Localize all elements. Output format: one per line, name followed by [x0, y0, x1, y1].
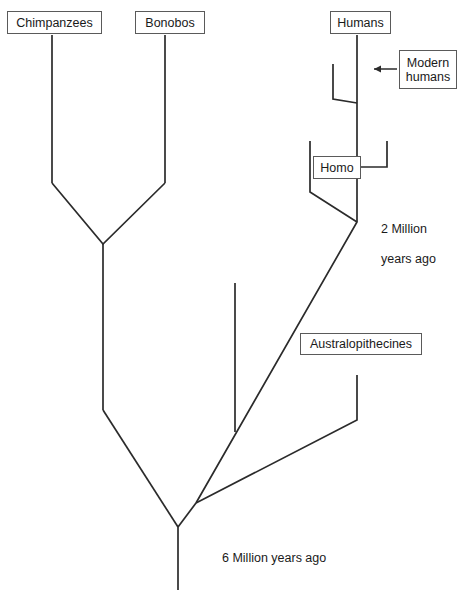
- modern-humans-text-line1: Modern: [407, 56, 449, 70]
- australopithecines-text: Australopithecines: [310, 337, 412, 351]
- node-label-modern-humans[interactable]: Modern humans: [399, 50, 457, 89]
- node-label-australopithecines[interactable]: Australopithecines: [300, 333, 422, 355]
- branch-homo-left: [310, 141, 357, 222]
- two-million-line2: years ago: [381, 252, 436, 267]
- chimpanzees-text: Chimpanzees: [16, 16, 92, 30]
- time-marker-two-million: 2 Million years ago: [381, 207, 436, 282]
- node-label-chimpanzees[interactable]: Chimpanzees: [7, 11, 102, 34]
- homo-text: Homo: [320, 161, 353, 175]
- two-million-line1: 2 Million: [381, 222, 436, 237]
- left-arrow-icon: [374, 66, 397, 73]
- humans-text: Humans: [337, 16, 384, 30]
- branch-australopithecine-stub-b: [196, 375, 357, 503]
- branch-pan-to-root: [103, 410, 178, 527]
- phylogenetic-tree-diagram: Chimpanzees Bonobos Humans Modern humans…: [0, 0, 465, 601]
- six-million-line1: 6 Million years ago: [222, 551, 326, 566]
- node-label-humans[interactable]: Humans: [330, 11, 391, 34]
- branch-modern-humans: [333, 64, 357, 103]
- node-label-homo[interactable]: Homo: [313, 156, 361, 179]
- bonobos-text: Bonobos: [145, 16, 194, 30]
- time-marker-six-million: 6 Million years ago: [222, 536, 326, 581]
- tree-branch-lines: [0, 0, 465, 601]
- branch-homo-right: [357, 141, 387, 167]
- node-label-bonobos[interactable]: Bonobos: [135, 11, 205, 34]
- branch-pan-clade-v: [52, 183, 165, 244]
- modern-humans-text-line2: humans: [406, 70, 450, 84]
- branch-australo-to-root: [178, 503, 196, 527]
